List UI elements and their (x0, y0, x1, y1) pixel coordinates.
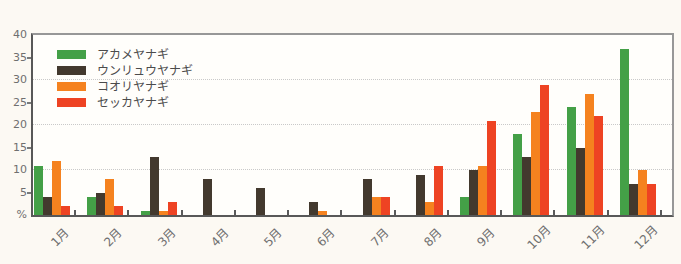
legend-color-swatch (57, 98, 86, 107)
x-axis-tick (447, 210, 449, 215)
legend-item: ウンリュウヤナギ (57, 66, 193, 75)
legend-item: セッカヤナギ (57, 98, 193, 107)
x-axis-label: 9月 (465, 216, 505, 256)
grid-line-20 (33, 124, 672, 125)
bar (372, 197, 381, 215)
x-axis-tick (607, 210, 609, 215)
y-axis-tick-label: 15 (1, 141, 27, 154)
bar (318, 211, 327, 216)
bar-chart: アカメヤナギウンリュウヤナギコオリヤナギセッカヤナギ %510152025303… (0, 0, 681, 264)
x-axis-tick (394, 210, 396, 215)
legend-item: アカメヤナギ (57, 50, 193, 59)
bar (487, 121, 496, 216)
bar (87, 197, 96, 215)
x-axis-tick (553, 210, 555, 215)
x-axis-label: 11月 (571, 216, 611, 256)
legend-label: セッカヤナギ (97, 97, 169, 109)
y-axis-tick (27, 147, 31, 149)
bar (594, 116, 603, 215)
bar (256, 188, 265, 215)
bar (620, 49, 629, 216)
bar (434, 166, 443, 216)
bar (567, 107, 576, 215)
y-axis-tick-label: 25 (1, 96, 27, 109)
bar (105, 179, 114, 215)
bar (61, 206, 70, 215)
bar (540, 85, 549, 216)
bar (168, 202, 177, 216)
bar (52, 161, 61, 215)
bar (638, 170, 647, 215)
x-axis-tick (74, 210, 76, 215)
x-axis-tick (127, 210, 129, 215)
y-axis-tick-label: 20 (1, 118, 27, 131)
bar (576, 148, 585, 216)
bar (150, 157, 159, 216)
bar (309, 202, 318, 216)
bar (416, 175, 425, 216)
x-axis-label: 4月 (199, 216, 239, 256)
bar (460, 197, 469, 215)
bar (381, 197, 390, 215)
bar (513, 134, 522, 215)
x-axis-label: 8月 (412, 216, 452, 256)
y-axis-tick-label: % (1, 208, 27, 221)
bar (34, 166, 43, 216)
y-axis-tick-label: 10 (1, 163, 27, 176)
x-axis-tick (340, 210, 342, 215)
bar (629, 184, 638, 216)
bar (203, 179, 212, 215)
bar (141, 211, 150, 216)
bar (647, 184, 656, 216)
y-axis-tick (27, 102, 31, 104)
x-axis-tick (181, 210, 183, 215)
x-axis-label: 12月 (625, 216, 665, 256)
x-axis-label: 7月 (358, 216, 398, 256)
x-axis-label: 5月 (252, 216, 292, 256)
y-axis-tick (27, 192, 31, 194)
x-axis-label: 6月 (305, 216, 345, 256)
bar (585, 94, 594, 216)
legend-label: ウンリュウヤナギ (97, 65, 193, 77)
legend-color-swatch (57, 82, 86, 91)
legend: アカメヤナギウンリュウヤナギコオリヤナギセッカヤナギ (57, 50, 193, 114)
legend-color-swatch (57, 50, 86, 59)
bar (363, 179, 372, 215)
y-axis-tick-label: 40 (1, 28, 27, 41)
x-axis-label: 1月 (39, 216, 79, 256)
bar (159, 211, 168, 216)
bar (43, 197, 52, 215)
bar (478, 166, 487, 216)
legend-label: アカメヤナギ (97, 49, 169, 61)
bar (114, 206, 123, 215)
y-axis-tick-label: 30 (1, 73, 27, 86)
legend-label: コオリヤナギ (97, 81, 169, 93)
x-axis-tick (234, 210, 236, 215)
bar (469, 170, 478, 215)
x-axis-tick (287, 210, 289, 215)
bar (425, 202, 434, 216)
y-axis-tick-label: 5 (1, 186, 27, 199)
legend-item: コオリヤナギ (57, 82, 193, 91)
x-axis-label: 10月 (518, 216, 558, 256)
y-axis-tick-label: 35 (1, 51, 27, 64)
x-axis-tick (500, 210, 502, 215)
x-axis-tick (660, 210, 662, 215)
bar (522, 157, 531, 216)
legend-color-swatch (57, 66, 86, 75)
y-axis-tick (27, 57, 31, 59)
x-axis-label: 3月 (145, 216, 185, 256)
bar (531, 112, 540, 216)
x-axis-label: 2月 (92, 216, 132, 256)
bar (96, 193, 105, 216)
